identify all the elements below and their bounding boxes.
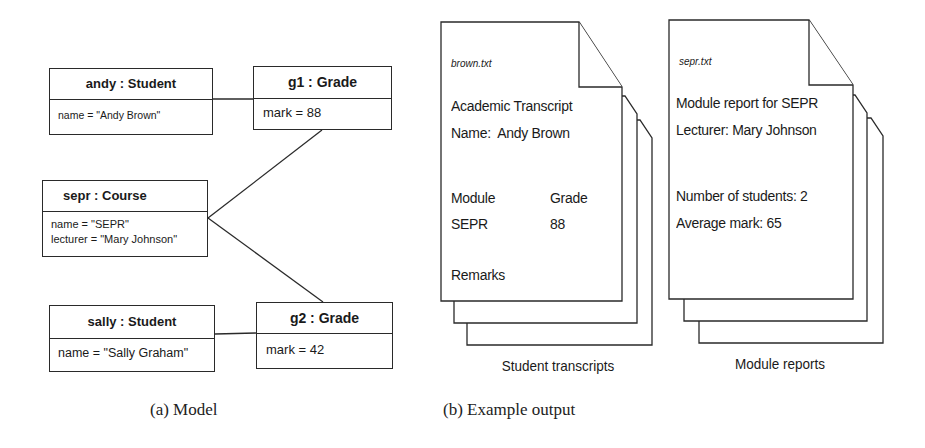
object-attr: name = "Sally Graham" xyxy=(58,346,214,360)
report-title: Module report for SEPR xyxy=(676,94,818,112)
transcript-col-grade: Grade xyxy=(550,189,587,207)
object-sepr-course: sepr : Course name = "SEPR" lecturer = "… xyxy=(42,180,208,257)
object-header: andy : Student xyxy=(50,69,212,100)
link-sepr-g1 xyxy=(208,130,322,218)
object-attr: name = "Andy Brown" xyxy=(58,109,212,121)
transcript-name: Name: Andy Brown xyxy=(451,124,570,142)
transcript-filename: brown.txt xyxy=(451,58,492,69)
transcript-remarks: Remarks xyxy=(451,266,505,284)
object-andy-student: andy : Student name = "Andy Brown" xyxy=(49,68,213,135)
transcript-title: Academic Transcript xyxy=(451,97,572,115)
transcript-col-module: Module xyxy=(451,189,495,207)
object-g1-grade: g1 : Grade mark = 88 xyxy=(253,66,392,130)
object-header: g1 : Grade xyxy=(254,67,391,99)
object-header: g2 : Grade xyxy=(257,303,392,334)
transcripts-label: Student transcripts xyxy=(486,357,630,374)
object-header: sally : Student xyxy=(50,306,214,339)
object-g2-grade: g2 : Grade mark = 42 xyxy=(256,302,393,369)
caption-b: (b) Example output xyxy=(443,400,575,420)
transcript-row-grade: 88 xyxy=(550,215,565,233)
report-lecturer: Lecturer: Mary Johnson xyxy=(676,121,817,139)
report-students: Number of students: 2 xyxy=(676,187,808,205)
object-attr: lecturer = "Mary Johnson" xyxy=(51,232,207,247)
link-sally-g2 xyxy=(215,333,256,334)
reports-label: Module reports xyxy=(717,355,843,372)
transcript-row-module: SEPR xyxy=(451,215,488,233)
object-attr: name = "SEPR" xyxy=(51,217,207,232)
transcripts-stack xyxy=(441,22,652,345)
object-attr: mark = 88 xyxy=(263,105,391,120)
object-sally-student: sally : Student name = "Sally Graham" xyxy=(49,305,215,372)
link-sepr-g2 xyxy=(208,218,323,302)
report-average: Average mark: 65 xyxy=(676,214,782,232)
object-header: sepr : Course xyxy=(43,181,207,212)
reports-stack xyxy=(669,20,883,343)
caption-a: (a) Model xyxy=(150,400,218,420)
object-attr: mark = 42 xyxy=(266,342,392,357)
report-filename: sepr.txt xyxy=(679,56,711,67)
